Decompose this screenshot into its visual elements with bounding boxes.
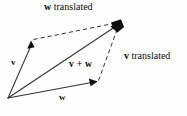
vector-w-arrowhead [89,79,98,87]
w-translated-line [34,24,114,40]
label-v-translated-suffix: translated [129,50,170,61]
sum-tip-arrowhead-cluster [111,19,125,32]
label-vector-v: v [11,58,16,67]
label-vector-sum: v + w [69,60,92,70]
label-w-translated: w translated [44,2,93,12]
vector-addition-figure: w translated v translated v + w v w [0,0,187,116]
label-v-translated: v translated [124,51,170,61]
label-vector-w: w [59,93,66,102]
w-translated-group [34,24,114,40]
label-w-translated-suffix: translated [51,1,92,12]
vector-w-group [8,79,98,98]
vector-v-arrowhead [27,41,34,49]
